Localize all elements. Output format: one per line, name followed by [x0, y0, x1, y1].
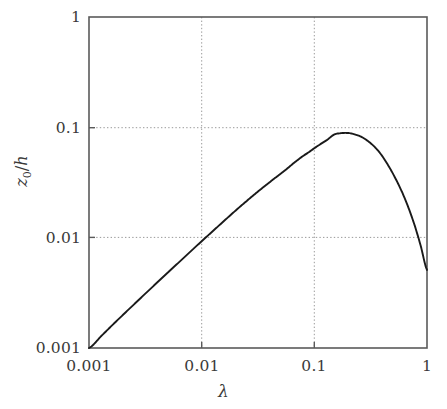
ytick-label-1: 1: [19, 8, 81, 26]
xtick-label-0.1: 0.1: [274, 357, 354, 375]
ytick-label-0.1: 0.1: [19, 119, 81, 137]
y-axis-title: z0/h: [12, 154, 34, 188]
xtick-label-1: 1: [387, 357, 447, 375]
x-axis-title: λ: [0, 381, 447, 401]
data-series-line: [89, 133, 427, 348]
chart-figure: 1 0.1 0.01 0.001 0.001 0.01 0.1 1 z0/h λ: [0, 0, 447, 409]
xtick-label-0.001: 0.001: [49, 357, 129, 375]
y-axis-title-slash: /: [12, 166, 31, 171]
ytick-label-0.01: 0.01: [19, 229, 81, 247]
y-axis-title-main: z: [12, 178, 31, 186]
y-axis-title-subscript: 0: [21, 171, 34, 178]
y-axis-title-denominator: h: [12, 156, 31, 166]
ytick-label-0.001: 0.001: [19, 339, 81, 357]
xtick-label-0.01: 0.01: [162, 357, 242, 375]
